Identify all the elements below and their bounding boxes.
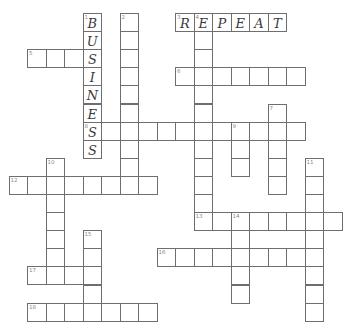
crossword-cell[interactable] [157,122,177,141]
crossword-cell[interactable] [249,67,269,86]
crossword-cell[interactable] [120,158,140,177]
crossword-cell[interactable] [46,303,66,322]
crossword-cell[interactable] [212,212,232,231]
crossword-cell[interactable]: E [231,13,251,32]
crossword-cell[interactable]: 6 [175,67,195,86]
crossword-cell[interactable]: S [83,49,103,68]
crossword-cell[interactable] [268,122,288,141]
crossword-cell[interactable] [83,285,103,304]
crossword-cell[interactable] [83,266,103,285]
crossword-cell[interactable]: 11 [305,158,325,177]
crossword-cell[interactable] [249,212,269,231]
crossword-cell[interactable] [305,176,325,195]
crossword-cell[interactable]: 3R [175,13,195,32]
crossword-cell[interactable]: 9 [231,122,251,141]
crossword-cell[interactable] [101,122,121,141]
crossword-cell[interactable] [249,122,269,141]
crossword-cell[interactable] [212,248,232,267]
crossword-cell[interactable] [305,230,325,249]
crossword-cell[interactable] [83,176,103,195]
crossword-cell[interactable] [120,85,140,104]
crossword-cell[interactable] [231,140,251,159]
crossword-cell[interactable] [101,303,121,322]
crossword-cell[interactable] [120,31,140,50]
crossword-cell[interactable] [212,122,232,141]
crossword-cell[interactable]: 18 [27,303,47,322]
crossword-cell[interactable]: 13 [194,212,214,231]
crossword-cell[interactable] [305,285,325,304]
crossword-cell[interactable]: S [83,140,103,159]
crossword-cell[interactable] [194,85,214,104]
crossword-cell[interactable] [46,194,66,213]
crossword-cell[interactable]: 12 [9,176,29,195]
crossword-cell[interactable] [46,248,66,267]
crossword-cell[interactable] [231,285,251,304]
crossword-cell[interactable]: 2 [120,13,140,32]
crossword-cell[interactable] [27,176,47,195]
crossword-cell[interactable] [305,212,325,231]
crossword-cell[interactable] [305,194,325,213]
crossword-cell[interactable] [194,31,214,50]
crossword-cell[interactable]: 7 [268,104,288,123]
crossword-cell[interactable] [138,176,158,195]
crossword-cell[interactable] [268,176,288,195]
crossword-cell[interactable] [268,212,288,231]
crossword-cell[interactable] [286,248,306,267]
crossword-cell[interactable]: P [212,13,232,32]
crossword-cell[interactable] [268,140,288,159]
crossword-cell[interactable]: 1B [83,13,103,32]
crossword-cell[interactable] [64,266,84,285]
crossword-cell[interactable]: 15 [83,230,103,249]
crossword-cell[interactable]: 5 [27,49,47,68]
crossword-cell[interactable] [120,104,140,123]
crossword-cell[interactable] [323,212,343,231]
crossword-cell[interactable] [120,303,140,322]
crossword-cell[interactable] [212,67,232,86]
crossword-cell[interactable]: I [83,67,103,86]
crossword-cell[interactable] [64,49,84,68]
crossword-cell[interactable] [120,140,140,159]
crossword-cell[interactable] [231,266,251,285]
crossword-cell[interactable] [138,303,158,322]
crossword-cell[interactable] [194,104,214,123]
crossword-cell[interactable] [83,248,103,267]
crossword-cell[interactable] [305,248,325,267]
crossword-cell[interactable] [194,49,214,68]
crossword-cell[interactable] [194,140,214,159]
crossword-cell[interactable] [194,67,214,86]
crossword-cell[interactable] [83,303,103,322]
crossword-cell[interactable] [46,212,66,231]
crossword-cell[interactable] [286,122,306,141]
crossword-cell[interactable] [268,67,288,86]
crossword-cell[interactable] [268,248,288,267]
crossword-cell[interactable] [194,176,214,195]
crossword-cell[interactable]: 16 [157,248,177,267]
crossword-cell[interactable]: 14 [231,212,251,231]
crossword-cell[interactable] [101,176,121,195]
crossword-cell[interactable] [64,303,84,322]
crossword-cell[interactable]: 17 [27,266,47,285]
crossword-cell[interactable]: 10 [46,158,66,177]
crossword-cell[interactable] [286,212,306,231]
crossword-cell[interactable] [120,67,140,86]
crossword-cell[interactable] [194,248,214,267]
crossword-cell[interactable]: T [268,13,288,32]
crossword-cell[interactable] [138,122,158,141]
crossword-cell[interactable]: E [83,104,103,123]
crossword-cell[interactable] [46,230,66,249]
crossword-cell[interactable]: U [83,31,103,50]
crossword-cell[interactable] [46,176,66,195]
crossword-cell[interactable] [46,266,66,285]
crossword-cell[interactable] [120,122,140,141]
crossword-cell[interactable] [194,194,214,213]
crossword-cell[interactable]: 4E [194,13,214,32]
crossword-cell[interactable] [120,176,140,195]
crossword-cell[interactable] [231,67,251,86]
crossword-cell[interactable] [194,158,214,177]
crossword-cell[interactable] [231,158,251,177]
crossword-cell[interactable] [175,248,195,267]
crossword-cell[interactable] [194,122,214,141]
crossword-cell[interactable]: N [83,85,103,104]
crossword-cell[interactable] [231,248,251,267]
crossword-cell[interactable] [120,49,140,68]
